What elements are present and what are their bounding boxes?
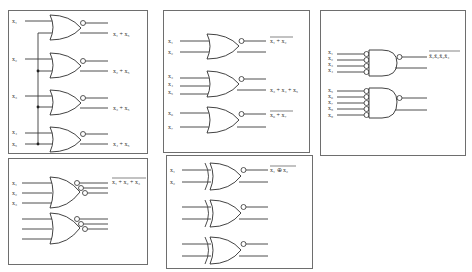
input-label: x₁ xyxy=(12,18,17,24)
input-label: x₂ xyxy=(12,56,17,62)
input-label: x₃ xyxy=(168,73,173,79)
input-label: x₉ xyxy=(328,112,333,118)
input-label: x₂ xyxy=(12,190,17,196)
panel-nand-inverted: x₁ x₂ x₃ x₄ x̄₁x̄₂x̄₃x̄₄ x₅ x₆ x₇ x₈ x₉ xyxy=(321,11,466,156)
input-label: x₄ xyxy=(168,81,173,87)
input-label: x₆ xyxy=(168,110,173,116)
input-label: x₂ xyxy=(170,179,175,185)
input-label: x₄ xyxy=(12,129,17,135)
input-label: x₁ xyxy=(12,180,17,186)
output-label: x₁ + x₂ + x₃ xyxy=(112,179,140,185)
output-label: x̄₁x̄₂x̄₃x̄₄ xyxy=(429,53,449,59)
panel-nor-three: x₁ x₂ x₃ x₁ + x₂ + x₃ xyxy=(9,159,148,265)
output-label: x₆ + x₇ xyxy=(270,112,287,118)
output-label: x₄ + x₅ xyxy=(113,141,130,147)
panel-or-fanout: x₁ x₁ + x₅ x₂ x₂ + x₅ x₃ x₃ + x₅ xyxy=(9,11,148,154)
input-label: x₈ xyxy=(328,105,333,111)
output-label: x₁ ⊕ x₂ xyxy=(270,167,288,173)
input-label: x₇ xyxy=(168,124,173,130)
input-label: x₁ xyxy=(170,167,175,173)
input-label: x₃ xyxy=(12,200,17,206)
input-label: x₂ xyxy=(168,49,173,55)
input-label: x₅ xyxy=(168,89,173,95)
output-label: x₁ + x₅ xyxy=(113,31,130,37)
panel-xnor: x₁ x₂ x₁ ⊕ x₂ xyxy=(167,156,313,269)
output-label: x₃ + x₄ + x₅ xyxy=(270,87,298,93)
input-label: x₄ xyxy=(328,67,333,73)
output-label: x₃ + x₅ xyxy=(113,105,130,111)
output-label: x₂ + x₅ xyxy=(113,68,130,74)
output-label: x₁ + x₂ xyxy=(270,38,287,44)
panel-nor-groups: x₁ x₂ x₁ + x₂ x₃ x₄ x₅ x₃ + x₄ + x₅ x₆ x xyxy=(164,11,310,153)
input-label: x₅ xyxy=(12,141,17,147)
input-label: x₁ xyxy=(168,38,173,44)
input-label: x₃ xyxy=(12,93,17,99)
